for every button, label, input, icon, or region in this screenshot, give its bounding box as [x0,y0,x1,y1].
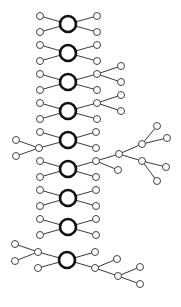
leaf-node-h2r2 [94,58,101,65]
leaf-node-h3r1b [118,79,125,86]
leaf-node-h5l2b [13,153,20,160]
leaf-node-h7r2 [93,203,100,210]
leaf-node-h4r1a [118,92,125,99]
leaf-node-h9r1 [92,249,99,256]
leaf-node-h6l1 [37,158,44,165]
leaf-node-h6r1b [115,167,122,174]
leaf-node-h5l2 [36,145,43,152]
leaf-node-h4r2 [94,116,101,123]
leaf-node-h6r1a2a [163,164,170,171]
hub-node-h9 [59,252,75,268]
leaf-node-h6r1a [116,151,123,158]
leaf-node-h8l1 [37,216,44,223]
leaf-node-h4l2 [37,116,44,123]
leaf-node-h6r2 [93,174,100,181]
leaf-node-h3l2 [37,87,44,94]
leaf-node-h9r2b2 [137,281,144,288]
leaf-node-h6l2 [37,174,44,181]
leaf-node-h5r1 [93,129,100,136]
hub-node-h5 [60,132,76,148]
leaf-node-h3r1a [118,63,125,70]
leaf-node-h8r2 [93,232,100,239]
leaf-node-h4r1 [94,100,101,107]
leaf-node-h6r1a1 [139,141,146,148]
leaf-node-h1l2 [37,29,44,36]
leaf-node-h2l1 [37,42,44,49]
leaf-node-h6r1a1b [164,135,171,142]
leaf-node-h9l2 [35,265,42,272]
hub-node-h8 [60,219,76,235]
hub-node-h6 [60,161,76,177]
leaf-node-h9r2 [92,265,99,272]
hub-node-h1 [60,16,76,32]
leaf-node-h7r1 [93,187,100,194]
leaf-node-h9r2a [114,256,121,263]
leaf-node-h3l1 [37,71,44,78]
hub-node-h3 [60,74,76,90]
hub-node-h4 [60,103,76,119]
leaf-node-h9l1 [35,249,42,256]
leaf-node-h6r1a2b [154,178,161,185]
leaf-node-h7l2 [37,203,44,210]
leaf-node-h6r1 [93,158,100,165]
leaf-node-h1r2 [94,29,101,36]
leaf-node-h2l2 [37,58,44,65]
leaf-node-h1r1 [94,13,101,20]
leaf-node-h7l1 [37,187,44,194]
leaf-node-h9l1a [12,241,19,248]
leaf-node-h6r1a1a [154,123,161,130]
leaf-node-h9l1b [12,258,19,265]
leaf-node-h2r1 [94,42,101,49]
hub-node-h7 [60,190,76,206]
leaf-node-h5l1 [37,129,44,136]
leaf-node-h1l1 [37,13,44,20]
leaf-node-h9r2b1 [137,264,144,271]
leaf-node-h4r1b [118,108,125,115]
leaf-node-h9r2b [115,273,122,280]
leaf-node-h8l2 [37,232,44,239]
leaf-node-h5r2 [93,145,100,152]
leaf-node-h8r1 [93,216,100,223]
leaf-node-h3r1 [94,71,101,78]
hub-nodes-layer [59,16,76,268]
hub-node-h2 [60,45,76,61]
leaf-node-h3r2 [94,87,101,94]
leaf-node-h4l1 [37,100,44,107]
leaf-node-h5l2a [13,137,20,144]
leaf-node-h6r1a2 [139,158,146,165]
tree-diagram [0,0,181,307]
leaf-nodes-layer [12,13,171,288]
